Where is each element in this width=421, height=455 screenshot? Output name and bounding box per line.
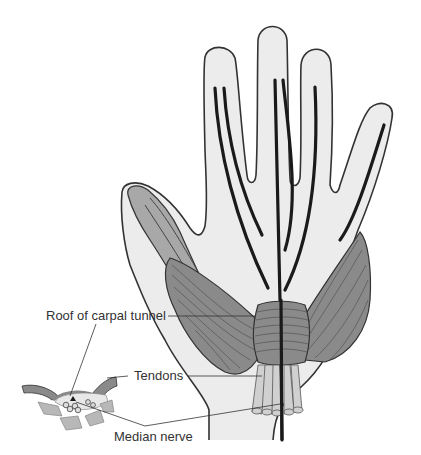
label-tendons: Tendons [134, 368, 183, 383]
wrist-tendon-bundle [252, 365, 303, 416]
left-ligament-piece [22, 385, 58, 400]
cross-section-inset [22, 377, 117, 430]
label-median-nerve: Median nerve [114, 429, 193, 444]
carpal-bone-2 [60, 416, 82, 430]
carpal-bone-3 [85, 410, 104, 426]
tendons-leader-left [107, 376, 128, 378]
roof-inset-leader [70, 324, 96, 396]
hand-diagram [0, 0, 421, 455]
median-nerve-line [281, 365, 282, 440]
label-roof-of-carpal-tunnel: Roof of carpal tunnel [46, 308, 166, 323]
